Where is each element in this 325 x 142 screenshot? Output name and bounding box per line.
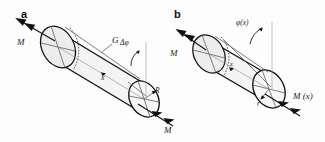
panel-b-radius-label: r: [257, 99, 260, 108]
panel-b-letter: b: [174, 8, 181, 20]
panel-b: b M φ(x) x r M (x): [169, 8, 313, 116]
panel-a-axis-label: x: [100, 73, 105, 82]
panel-b-twist-arc-arrowhead: [259, 27, 263, 31]
panel-a-twist-angle-label: Δφ: [119, 38, 129, 47]
panel-a-G-leader: [101, 44, 112, 53]
panel-b-moment-internal-label: M (x): [292, 91, 313, 101]
panel-a-shear-modulus-leader: [101, 44, 112, 53]
panel-a: a M M G Δφ x R: [15, 8, 174, 135]
panel-a-moment-right-label: M: [163, 125, 172, 135]
figure-container: a M M G Δφ x R: [0, 0, 325, 142]
panel-b-twist-angle-label: φ(x): [236, 18, 249, 27]
panel-b-moment-left-label: M: [169, 48, 178, 58]
panel-a-moment-left-label: M: [16, 37, 25, 47]
panel-a-shear-modulus-label: G: [112, 35, 119, 45]
panel-b-twist-arc: [250, 28, 262, 44]
panel-b-axis-label: x: [229, 60, 233, 67]
panel-a-moment-left-arrowhead-2: [24, 23, 35, 31]
torsion-diagram: a M M G Δφ x R: [0, 0, 325, 142]
panel-a-radius-label: R: [154, 86, 160, 95]
panel-a-letter: a: [21, 8, 28, 20]
